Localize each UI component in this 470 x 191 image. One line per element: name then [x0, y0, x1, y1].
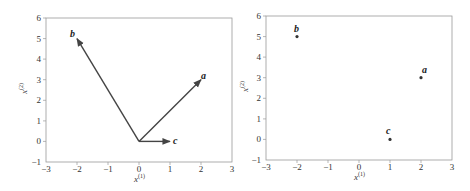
left-xtick-2: 2: [199, 164, 204, 174]
figure: 6 5 4 3 2 1 0 −1 −3 −2 −1 0 1 2 3 x(1): [0, 0, 470, 191]
vector-b-label: b: [70, 28, 75, 39]
right-x-axis-label: x(1): [353, 171, 365, 182]
right-xtick-neg1: −1: [323, 162, 333, 172]
right-xtick-neg3: −3: [261, 162, 271, 172]
point-b-label: b: [294, 23, 299, 34]
right-xtick-3: 3: [450, 162, 455, 172]
left-ytick-6: 6: [37, 13, 42, 23]
left-xtick-3: 3: [230, 164, 235, 174]
right-ytick-6: 6: [257, 11, 262, 21]
left-xtick-1: 1: [168, 164, 173, 174]
right-xtick-1: 1: [388, 162, 393, 172]
right-ytick-2: 2: [257, 93, 262, 103]
left-ytick-3: 3: [37, 75, 42, 85]
right-y-ticks: 6 5 4 3 2 1 0 −1: [251, 11, 266, 165]
right-y-axis-label: x(2): [239, 81, 250, 93]
point-c-label: c: [386, 125, 391, 136]
right-ytick-4: 4: [257, 52, 262, 62]
point-a-label: a: [422, 64, 427, 75]
point-a: [419, 76, 422, 79]
point-b: [295, 35, 298, 38]
right-plot-frame: [266, 16, 452, 160]
left-xtick-neg1: −1: [103, 164, 113, 174]
right-ytick-3: 3: [257, 73, 262, 83]
right-ytick-neg1: −1: [251, 155, 261, 165]
left-ytick-1: 1: [37, 116, 42, 126]
left-plot: 6 5 4 3 2 1 0 −1 −3 −2 −1 0 1 2 3 x(1): [18, 13, 235, 184]
right-xtick-neg2: −2: [292, 162, 302, 172]
left-y-axis-label: x(2): [18, 83, 29, 95]
left-y-ticks: 6 5 4 3 2 1 0 −1: [31, 13, 46, 167]
right-plot: 6 5 4 3 2 1 0 −1 −3 −2 −1 0 1 2 3 x(1): [239, 11, 455, 182]
right-ytick-5: 5: [257, 32, 262, 42]
left-ytick-4: 4: [37, 54, 42, 64]
left-ytick-5: 5: [37, 34, 42, 44]
left-ytick-0: 0: [37, 136, 42, 146]
left-ytick-2: 2: [37, 95, 42, 105]
right-ytick-1: 1: [257, 114, 262, 124]
left-xtick-neg3: −3: [41, 164, 51, 174]
vector-c-label: c: [173, 135, 178, 146]
vector-a-label: a: [201, 70, 206, 81]
right-xtick-2: 2: [419, 162, 424, 172]
left-xtick-neg2: −2: [72, 164, 82, 174]
vector-a-arrow: [139, 80, 201, 142]
left-ytick-neg1: −1: [31, 157, 41, 167]
left-x-axis-label: x(1): [133, 173, 145, 184]
right-ytick-0: 0: [257, 134, 262, 144]
point-c: [388, 138, 391, 141]
vector-b-arrow: [77, 39, 139, 142]
